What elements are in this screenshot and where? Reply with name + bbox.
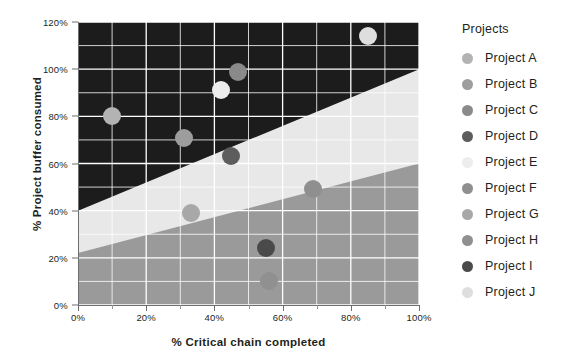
- x-tick-mark: [351, 305, 352, 311]
- x-tick-mark: [419, 305, 420, 311]
- legend-items: Project AProject BProject CProject DProj…: [462, 45, 578, 305]
- legend-item-project-j[interactable]: Project J: [462, 279, 578, 305]
- x-tick-mark: [385, 305, 386, 309]
- legend-item-label: Project G: [485, 207, 539, 221]
- x-tick-label: 80%: [328, 312, 374, 323]
- legend-item-project-h[interactable]: Project H: [462, 227, 578, 253]
- x-tick-label: 20%: [123, 312, 169, 323]
- plot-area: [78, 22, 419, 305]
- y-tick-label: 0%: [24, 300, 68, 311]
- fever-chart: % Project buffer consumed 0%20%40%60%80%…: [0, 0, 582, 364]
- legend-item-label: Project E: [485, 155, 538, 169]
- legend-item-project-c[interactable]: Project C: [462, 97, 578, 123]
- x-tick-mark: [78, 305, 79, 311]
- legend-item-project-b[interactable]: Project B: [462, 71, 578, 97]
- x-tick-label: 100%: [396, 312, 442, 323]
- legend-swatch-icon: [462, 105, 473, 116]
- x-tick-label: 0%: [55, 312, 101, 323]
- data-point-project-d[interactable]: [222, 147, 240, 165]
- legend-swatch-icon: [462, 53, 473, 64]
- x-tick-mark: [214, 305, 215, 311]
- legend-item-label: Project J: [485, 285, 535, 299]
- y-tick-label: 100%: [24, 64, 68, 75]
- legend-title: Projects: [462, 22, 578, 36]
- x-tick-mark: [180, 305, 181, 309]
- legend-item-label: Project C: [485, 103, 538, 117]
- y-tick-label: 80%: [24, 111, 68, 122]
- legend-item-label: Project F: [485, 181, 537, 195]
- data-point-project-g[interactable]: [182, 204, 200, 222]
- legend-item-label: Project A: [485, 51, 537, 65]
- y-tick-label: 40%: [24, 205, 68, 216]
- legend-item-label: Project I: [485, 259, 533, 273]
- legend-swatch-icon: [462, 235, 473, 246]
- legend-swatch-icon: [462, 183, 473, 194]
- legend-item-label: Project H: [485, 233, 538, 247]
- data-point-project-f[interactable]: [304, 180, 322, 198]
- legend-item-project-e[interactable]: Project E: [462, 149, 578, 175]
- x-tick-mark: [146, 305, 147, 311]
- data-point-project-e[interactable]: [212, 81, 230, 99]
- legend-item-label: Project D: [485, 129, 538, 143]
- x-tick-label: 60%: [260, 312, 306, 323]
- x-tick-label: 40%: [191, 312, 237, 323]
- data-point-project-a[interactable]: [103, 107, 121, 125]
- legend-item-project-f[interactable]: Project F: [462, 175, 578, 201]
- legend-swatch-icon: [462, 79, 473, 90]
- x-axis-title: % Critical chain completed: [78, 336, 419, 348]
- data-point-project-b[interactable]: [175, 129, 193, 147]
- data-point-project-i[interactable]: [257, 239, 275, 257]
- legend-swatch-icon: [462, 261, 473, 272]
- legend-swatch-icon: [462, 157, 473, 168]
- legend-item-label: Project B: [485, 77, 538, 91]
- data-point-project-c[interactable]: [229, 63, 247, 81]
- legend: Projects Project AProject BProject CProj…: [462, 22, 578, 305]
- legend-item-project-i[interactable]: Project I: [462, 253, 578, 279]
- x-tick-mark: [112, 305, 113, 309]
- legend-swatch-icon: [462, 209, 473, 220]
- x-tick-mark: [317, 305, 318, 309]
- y-tick-label: 120%: [24, 17, 68, 28]
- y-tick-label: 20%: [24, 252, 68, 263]
- legend-item-project-g[interactable]: Project G: [462, 201, 578, 227]
- data-point-project-j[interactable]: [359, 27, 377, 45]
- x-tick-mark: [249, 305, 250, 309]
- y-axis-line: [78, 22, 79, 306]
- legend-swatch-icon: [462, 131, 473, 142]
- legend-swatch-icon: [462, 287, 473, 298]
- legend-item-project-d[interactable]: Project D: [462, 123, 578, 149]
- y-tick-label: 60%: [24, 158, 68, 169]
- plot-canvas: [78, 22, 419, 305]
- data-point-project-h[interactable]: [260, 272, 278, 290]
- legend-item-project-a[interactable]: Project A: [462, 45, 578, 71]
- x-tick-mark: [283, 305, 284, 311]
